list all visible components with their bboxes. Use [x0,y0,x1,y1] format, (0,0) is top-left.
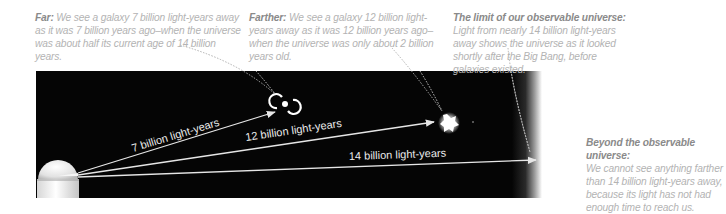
caption-farther: Farther: We see a galaxy 12 billion ligh… [249,11,434,63]
caption-far: Far: We see a galaxy 7 billion light-yea… [35,11,245,63]
caption-limit-text: Light from nearly 14 billion light-years… [453,25,616,75]
distant-star [472,121,474,123]
caption-beyond: Beyond the observable universe:We cannot… [586,136,726,214]
observable-edge-gradient [512,71,542,198]
caption-limit-title: The limit of our observable universe: [453,11,633,24]
caption-beyond-title: Beyond the observable universe: [586,136,726,162]
caption-far-title: Far: [35,12,54,23]
caption-farther-title: Farther: [249,12,286,23]
caption-beyond-text: We cannot see anything farther than 14 b… [586,163,723,213]
young-galaxy-blob-icon [438,112,460,134]
caption-far-text: We see a galaxy 7 billion light-years aw… [35,12,241,62]
caption-limit: The limit of our observable universe:Lig… [453,11,633,76]
